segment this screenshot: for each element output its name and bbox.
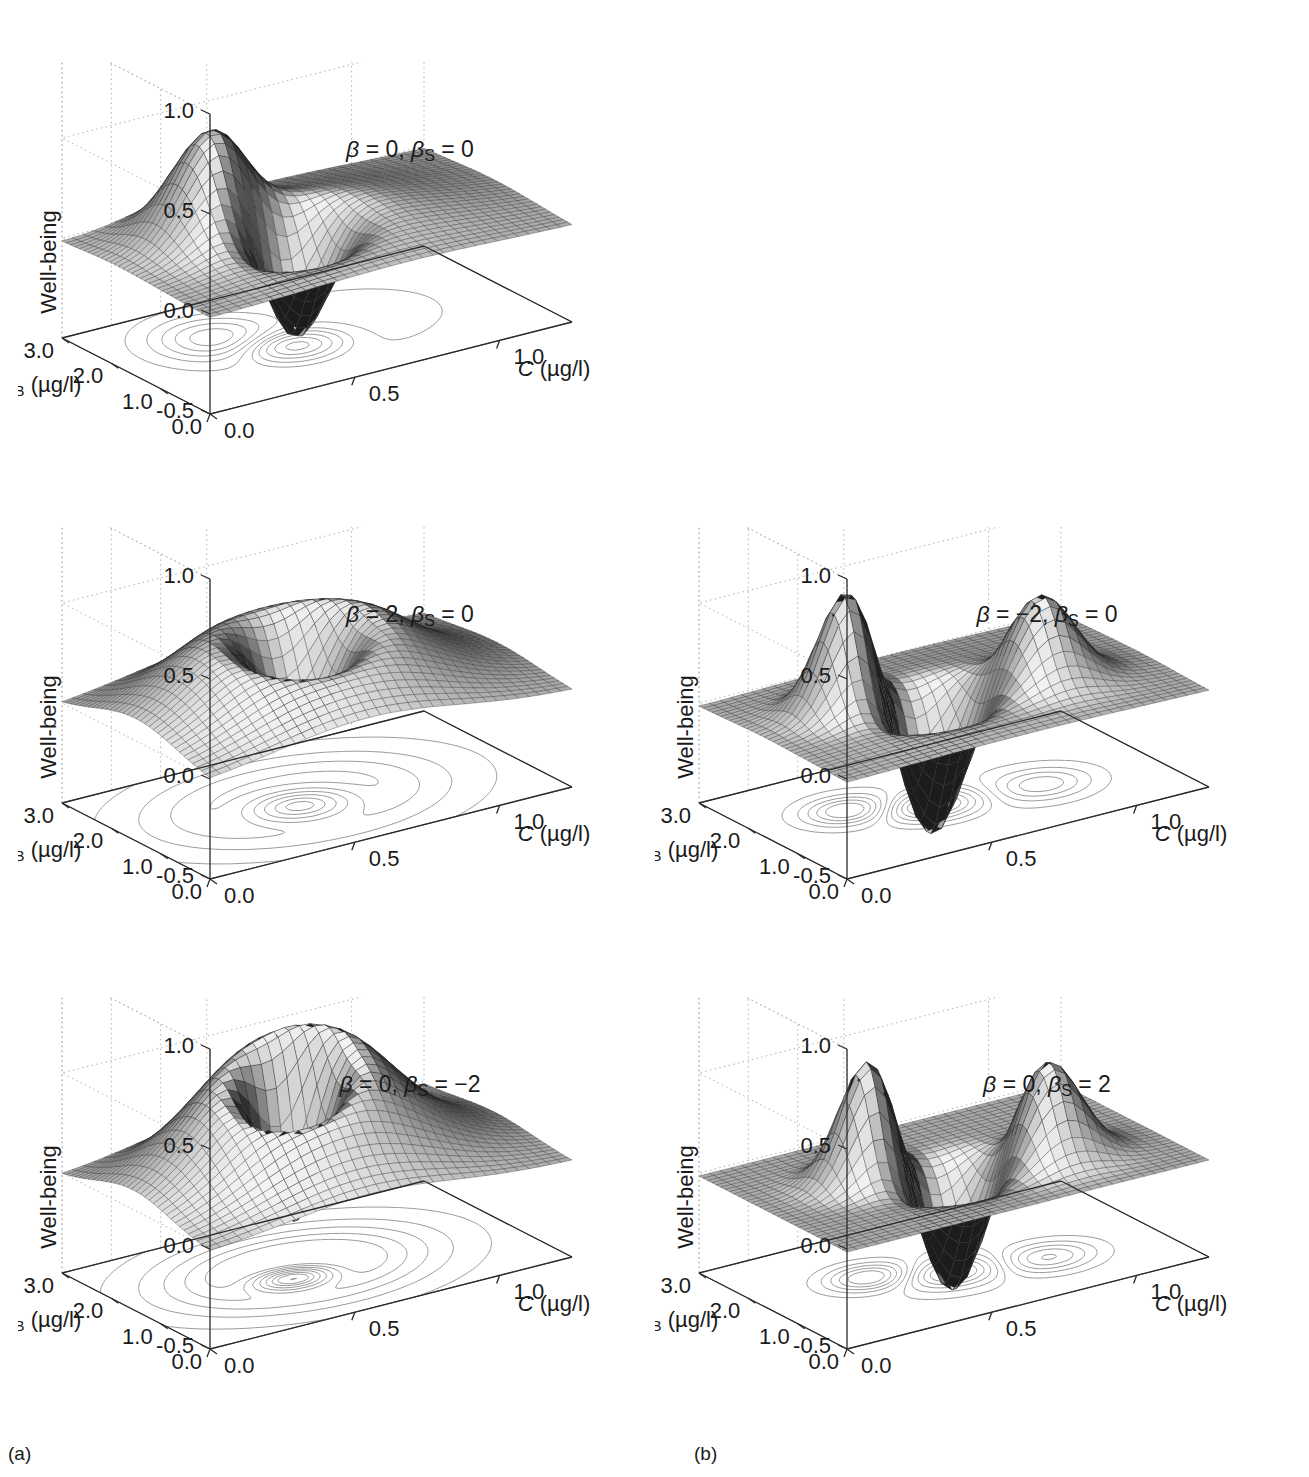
y-tick-label: 0.0	[171, 879, 202, 904]
z-tick-label: 0.5	[800, 663, 831, 688]
z-tick-label: 0.0	[163, 763, 194, 788]
plot-canvas-p4: 1.00.50.0-0.50.01.02.03.00.00.51.0Well-b…	[18, 997, 673, 1467]
parameter-annotation: β = 0, βS = 0	[345, 136, 474, 164]
y-axis-title: CB (µg/l)	[18, 372, 81, 399]
x-axis-symbol: C	[1155, 1291, 1171, 1316]
x-tick-label: 0.0	[224, 883, 255, 908]
figure-label-a: (a)	[8, 1443, 31, 1465]
y-tick-label: 1.0	[122, 854, 153, 879]
x-axis-title: C (µg/l)	[518, 1291, 591, 1316]
x-axis-units: (µg/l)	[534, 821, 591, 846]
y-axis-units: (µg/l)	[25, 837, 82, 862]
x-tick-label: 0.0	[861, 883, 892, 908]
z-axis-title: Well-being	[36, 1145, 61, 1249]
z-tick-label: 0.0	[800, 763, 831, 788]
y-axis-units: (µg/l)	[25, 372, 82, 397]
y-axis-title: CB (µg/l)	[655, 1307, 718, 1334]
surface-plot-beta0-betasneg2: 1.00.50.0-0.50.01.02.03.00.00.51.0Well-b…	[18, 997, 673, 1467]
x-axis-title: C (µg/l)	[518, 821, 591, 846]
y-axis-title: CB (µg/l)	[18, 837, 81, 864]
y-axis-units: (µg/l)	[662, 1307, 719, 1332]
parameter-annotation: β = −2, βS = 0	[975, 601, 1117, 629]
x-tick-label: 0.5	[369, 846, 400, 871]
x-axis-title: C (µg/l)	[1155, 1291, 1228, 1316]
y-tick-label: 1.0	[759, 854, 790, 879]
y-tick-label: 0.0	[808, 879, 839, 904]
figure-label-b: (b)	[694, 1443, 717, 1465]
surface-plot-beta0-betas2: 1.00.50.0-0.50.01.02.03.00.00.51.0Well-b…	[655, 997, 1309, 1467]
z-tick-label: 1.0	[800, 1033, 831, 1058]
y-axis-title: CB (µg/l)	[655, 837, 718, 864]
y-tick-label: 1.0	[122, 1324, 153, 1349]
x-axis-symbol: C	[518, 1291, 534, 1316]
z-axis-title: Well-being	[36, 675, 61, 779]
parameter-annotation: β = 0, βS = −2	[338, 1071, 480, 1099]
x-axis-units: (µg/l)	[534, 1291, 591, 1316]
y-axis-subscript: B	[18, 382, 25, 399]
z-tick-label: 0.5	[163, 198, 194, 223]
y-tick-label: 3.0	[660, 1273, 691, 1298]
plot-canvas-p1: 1.00.50.0-0.50.01.02.03.00.00.51.0Well-b…	[18, 62, 673, 532]
plot-canvas-p3: 1.00.50.0-0.50.01.02.03.00.00.51.0Well-b…	[655, 527, 1309, 997]
z-tick-label: 0.0	[800, 1233, 831, 1258]
y-tick-label: 3.0	[660, 803, 691, 828]
x-tick-label: 0.0	[224, 1353, 255, 1378]
x-axis-title: C (µg/l)	[1155, 821, 1228, 846]
x-axis-symbol: C	[518, 821, 534, 846]
parameter-annotation: β = 2, βS = 0	[345, 601, 474, 629]
z-tick-label: 0.5	[163, 663, 194, 688]
y-axis-units: (µg/l)	[25, 1307, 82, 1332]
z-tick-label: 0.5	[800, 1133, 831, 1158]
y-tick-label: 0.0	[171, 414, 202, 439]
x-tick-label: 0.5	[1006, 1316, 1037, 1341]
y-axis-title: CB (µg/l)	[18, 1307, 81, 1334]
surface-plot-beta0-betas0: 1.00.50.0-0.50.01.02.03.00.00.51.0Well-b…	[18, 62, 673, 532]
plot-canvas-p5: 1.00.50.0-0.50.01.02.03.00.00.51.0Well-b…	[655, 997, 1309, 1467]
z-tick-label: 0.5	[163, 1133, 194, 1158]
y-tick-label: 3.0	[23, 338, 54, 363]
z-axis-title: Well-being	[673, 675, 698, 779]
y-axis-units: (µg/l)	[662, 837, 719, 862]
y-tick-label: 3.0	[23, 1273, 54, 1298]
x-axis-units: (µg/l)	[1171, 821, 1228, 846]
x-axis-symbol: C	[518, 356, 534, 381]
z-axis-title: Well-being	[673, 1145, 698, 1249]
x-tick-label: 0.0	[861, 1353, 892, 1378]
x-axis-symbol: C	[1155, 821, 1171, 846]
y-axis-subscript: B	[18, 847, 25, 864]
y-tick-label: 1.0	[759, 1324, 790, 1349]
z-tick-label: 0.0	[163, 1233, 194, 1258]
y-tick-label: 0.0	[171, 1349, 202, 1374]
x-tick-label: 0.5	[1006, 846, 1037, 871]
plot-canvas-p2: 1.00.50.0-0.50.01.02.03.00.00.51.0Well-b…	[18, 527, 673, 997]
surface-plot-betaneg2-betas0: 1.00.50.0-0.50.01.02.03.00.00.51.0Well-b…	[655, 527, 1309, 997]
z-tick-label: 1.0	[800, 563, 831, 588]
y-axis-subscript: B	[655, 1317, 662, 1334]
x-axis-units: (µg/l)	[534, 356, 591, 381]
surface-plot-beta2-betas0: 1.00.50.0-0.50.01.02.03.00.00.51.0Well-b…	[18, 527, 673, 997]
x-axis-units: (µg/l)	[1171, 1291, 1228, 1316]
y-axis-subscript: B	[655, 847, 662, 864]
x-tick-label: 0.0	[224, 418, 255, 443]
z-axis-title: Well-being	[36, 210, 61, 314]
z-tick-label: 1.0	[163, 1033, 194, 1058]
x-tick-label: 0.5	[369, 381, 400, 406]
parameter-annotation: β = 0, βS = 2	[982, 1071, 1111, 1099]
z-tick-label: 1.0	[163, 98, 194, 123]
y-tick-label: 1.0	[122, 389, 153, 414]
x-tick-label: 0.5	[369, 1316, 400, 1341]
z-tick-label: 0.0	[163, 298, 194, 323]
y-tick-label: 3.0	[23, 803, 54, 828]
y-axis-subscript: B	[18, 1317, 25, 1334]
y-tick-label: 0.0	[808, 1349, 839, 1374]
z-tick-label: 1.0	[163, 563, 194, 588]
x-axis-title: C (µg/l)	[518, 356, 591, 381]
